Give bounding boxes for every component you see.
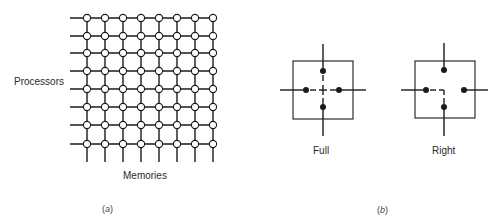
crosspoint-node — [119, 67, 126, 74]
crosspoint-node — [191, 103, 198, 110]
crosspoint-node — [173, 32, 180, 39]
crosspoint-node — [83, 32, 90, 39]
crosspoint-node — [101, 49, 108, 56]
crosspoint-node — [173, 85, 180, 92]
crosspoint-node — [83, 140, 90, 147]
crosspoint-node — [155, 85, 162, 92]
crosspoint-node — [119, 49, 126, 56]
crosspoint-node — [119, 85, 126, 92]
caption-b-close: ) — [385, 205, 388, 215]
crosspoint-node — [209, 140, 216, 147]
crosspoint-node — [191, 49, 198, 56]
crosspoint-node — [101, 140, 108, 147]
diagram-canvas — [0, 0, 496, 223]
crosspoint-node — [209, 121, 216, 128]
crosspoint-node — [119, 103, 126, 110]
crosspoint-node — [137, 14, 144, 21]
crosspoint-node — [101, 14, 108, 21]
crosspoint-node — [191, 67, 198, 74]
crosspoint-nodes — [83, 14, 216, 147]
switch-right-ports — [423, 67, 467, 110]
crosspoint-node — [209, 85, 216, 92]
crosspoint-node — [191, 121, 198, 128]
crosspoint-node — [119, 140, 126, 147]
crosspoint-node — [173, 103, 180, 110]
crosspoint-node — [83, 14, 90, 21]
crosspoint-node — [137, 103, 144, 110]
crosspoint-node — [209, 67, 216, 74]
memories-label: Memories — [123, 170, 167, 182]
crosspoint-node — [83, 67, 90, 74]
crosspoint-node — [83, 103, 90, 110]
crosspoint-node — [137, 140, 144, 147]
crosspoint-node — [155, 140, 162, 147]
crosspoint-node — [191, 32, 198, 39]
processors-label: Processors — [14, 76, 64, 88]
crosspoint-node — [83, 49, 90, 56]
crosspoint-node — [119, 14, 126, 21]
caption-a-close: ) — [110, 204, 113, 214]
crosspoint-node — [119, 32, 126, 39]
crosspoint-node — [155, 67, 162, 74]
crosspoint-node — [155, 103, 162, 110]
crosspoint-node — [209, 14, 216, 21]
crosspoint-node — [173, 49, 180, 56]
crosspoint-node — [191, 14, 198, 21]
crosspoint-node — [101, 32, 108, 39]
crosspoint-node — [137, 85, 144, 92]
crosspoint-node — [101, 85, 108, 92]
crosspoint-node — [173, 67, 180, 74]
crosspoint-node — [191, 140, 198, 147]
crosspoint-node — [119, 121, 126, 128]
crosspoint-node — [83, 121, 90, 128]
crosspoint-node — [101, 121, 108, 128]
crosspoint-node — [83, 85, 90, 92]
crosspoint-node — [155, 49, 162, 56]
crosspoint-node — [155, 14, 162, 21]
switch-right-label: Right — [432, 145, 455, 157]
caption-b: (b) — [377, 205, 388, 216]
crosspoint-node — [155, 121, 162, 128]
crosspoint-node — [101, 67, 108, 74]
crosspoint-node — [173, 121, 180, 128]
crosspoint-node — [209, 103, 216, 110]
crosspoint-node — [173, 140, 180, 147]
crosspoint-node — [173, 14, 180, 21]
crosspoint-node — [137, 32, 144, 39]
crosspoint-node — [101, 103, 108, 110]
crosspoint-node — [191, 85, 198, 92]
crosspoint-node — [209, 49, 216, 56]
switch-full-label: Full — [313, 145, 329, 157]
crosspoint-node — [155, 32, 162, 39]
switch-full — [280, 44, 366, 136]
crosspoint-node — [137, 67, 144, 74]
crosspoint-node — [137, 121, 144, 128]
crosspoint-node — [137, 49, 144, 56]
caption-a: (a) — [102, 204, 113, 215]
crosspoint-node — [209, 32, 216, 39]
switch-right — [401, 43, 488, 136]
